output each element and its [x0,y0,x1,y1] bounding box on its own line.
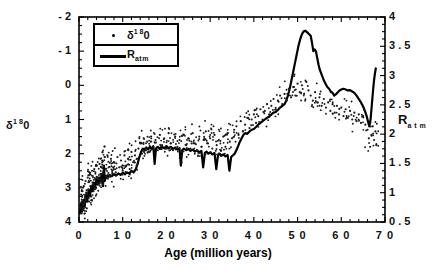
legend-label-ratm: Ratm [127,48,149,62]
y-axis-right-tick-label: 0 . 5 [389,215,419,227]
y-axis-left-tick-label: 4 [45,215,71,227]
x-axis-tick-label: 7 0 [368,229,402,241]
y-axis-right-tick-label: 2 . 5 [389,98,419,110]
y-axis-right-tick-label: 2 [389,127,419,139]
legend-item-ratm: Ratm [95,44,177,65]
chart-legend: δ1 80 Ratm [93,23,179,67]
y-axis-right-tick-label: 3 [389,69,419,81]
x-axis-tick-label: 2 0 [149,229,183,241]
x-axis-tick-label: 6 0 [324,229,358,241]
y-axis-left-tick-label: - 1 [45,44,71,56]
x-axis-tick-label: 0 [62,229,96,241]
x-axis-tick-label: 1 0 [106,229,140,241]
legend-marker-line-icon [99,50,127,61]
y-axis-left-tick-label: 3 [45,181,71,193]
x-axis-tick-label: 5 0 [281,229,315,241]
legend-marker-dot-icon [99,29,127,40]
y-axis-left-tick-label: 1 [45,113,71,125]
figure-canvas: δ1 80 Ra t m Age (million years) - 2- 10… [0,0,436,270]
y-axis-left-tick-label: - 2 [45,10,71,22]
x-axis-tick-label: 3 0 [193,229,227,241]
legend-label-d18o: δ1 80 [127,28,150,41]
legend-item-d18o: δ1 80 [95,25,177,44]
y-axis-left-tick-label: 0 [45,78,71,90]
y-axis-right-tick-label: 3 . 5 [389,39,419,51]
y-axis-right-tick-label: 1 . 5 [389,156,419,168]
y-axis-right-tick-label: 1 [389,186,419,198]
x-axis-tick-label: 4 0 [237,229,271,241]
y-axis-right-tick-label: 4 [389,10,419,22]
y-axis-left-tick-label: 2 [45,147,71,159]
